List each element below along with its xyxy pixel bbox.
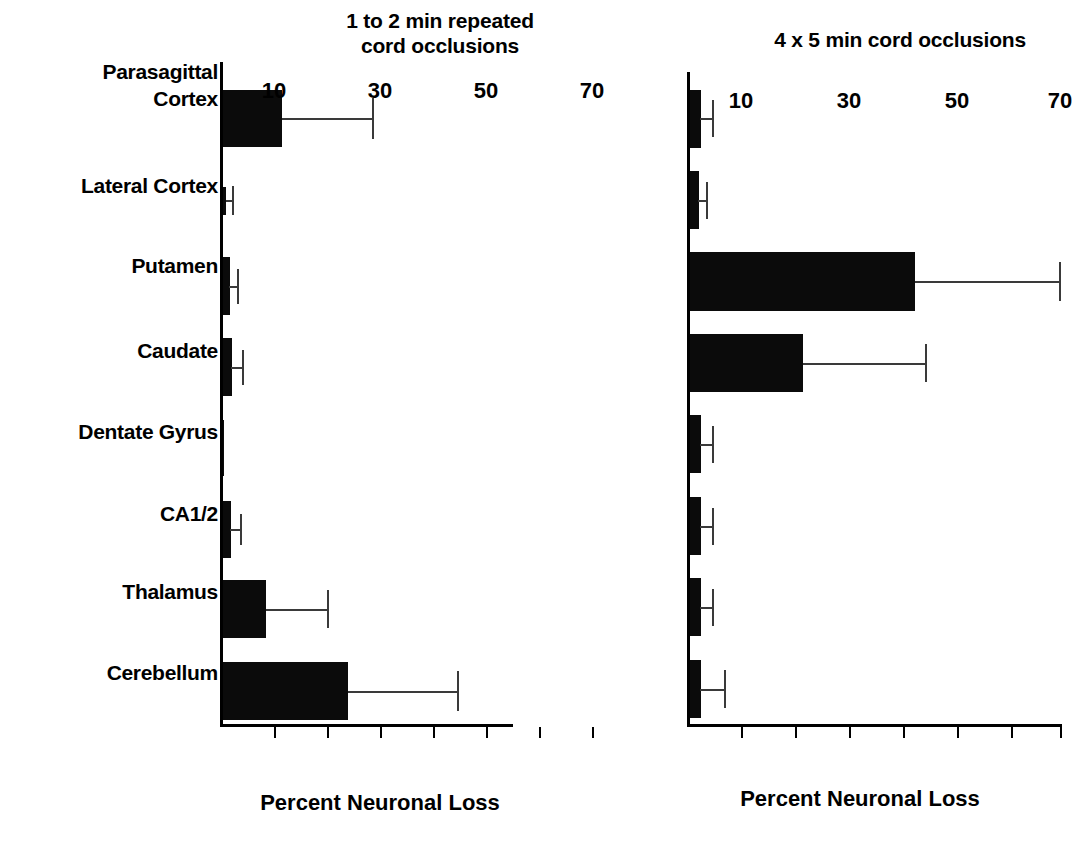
x-ticklabel-50: 50 <box>927 88 987 114</box>
errorbar-line-cerebellum <box>348 691 459 693</box>
category-label-caudate: Caudate <box>10 337 218 364</box>
errorbar-cap-caudate <box>925 344 927 382</box>
errorbar-cap-putamen <box>237 269 239 304</box>
bar-caudate <box>690 334 803 392</box>
x-ticklabel-10: 10 <box>244 78 304 104</box>
panel-title-left: 1 to 2 min repeated cord occlusions <box>290 8 590 58</box>
category-label-ca1-2: CA1/2 <box>10 500 218 527</box>
x-ticklabel-50: 50 <box>456 78 516 104</box>
errorbar-line-parasagittal-cortex <box>282 118 374 120</box>
errorbar-cap-parasagittal-cortex <box>372 98 374 139</box>
x-tick-40 <box>903 727 905 738</box>
errorbar-cap-cerebellum <box>724 670 726 708</box>
x-tick-70 <box>592 727 594 738</box>
x-tick-10 <box>741 727 743 738</box>
errorbar-cap-thalamus <box>712 589 714 626</box>
chart-panel-left: 1 to 2 min repeated cord occlusions Para… <box>0 0 600 849</box>
plot-area-right: 10 30 50 70 <box>687 72 1062 727</box>
errorbar-cap-ca1-2 <box>712 508 714 545</box>
category-label-thalamus: Thalamus <box>10 578 218 605</box>
x-ticklabel-70: 70 <box>1030 88 1090 114</box>
x-ticklabel-30: 30 <box>350 78 410 104</box>
bar-putamen <box>690 252 915 311</box>
x-tick-50 <box>486 727 488 738</box>
x-tick-30 <box>380 727 382 738</box>
x-tick-60 <box>539 727 541 738</box>
category-label-dentate-gyrus: Dentate Gyrus <box>10 418 218 445</box>
x-axis-title-right: Percent Neuronal Loss <box>660 786 1060 812</box>
x-tick-20 <box>327 727 329 738</box>
x-tick-20 <box>795 727 797 738</box>
panel-title-right: 4 x 5 min cord occlusions <box>735 27 1065 52</box>
x-ticklabel-10: 10 <box>711 88 771 114</box>
errorbar-cap-cerebellum <box>457 671 459 711</box>
x-tick-70 <box>1060 727 1062 738</box>
x-tick-10 <box>274 727 276 738</box>
x-axis-title-left: Percent Neuronal Loss <box>200 790 560 816</box>
x-axis-line-right <box>687 724 1062 727</box>
errorbar-cap-caudate <box>242 350 244 385</box>
errorbar-cap-thalamus <box>327 590 329 628</box>
bar-cerebellum <box>223 662 348 720</box>
errorbar-cap-dentate-gyrus <box>712 426 714 463</box>
category-label-cerebellum: Cerebellum <box>10 659 218 686</box>
figure-canvas: 1 to 2 min repeated cord occlusions Para… <box>0 0 1090 849</box>
x-tick-50 <box>957 727 959 738</box>
errorbar-cap-lateral-cortex <box>706 182 708 219</box>
errorbar-cap-ca1-2 <box>240 514 242 545</box>
x-tick-40 <box>433 727 435 738</box>
category-label-putamen: Putamen <box>10 252 218 279</box>
x-ticklabel-30: 30 <box>819 88 879 114</box>
chart-panel-right: 4 x 5 min cord occlusions <box>600 0 1090 849</box>
errorbar-line-cerebellum <box>700 689 726 691</box>
bar-thalamus <box>223 580 266 638</box>
errorbar-cap-putamen <box>1059 262 1061 301</box>
category-label-lateral-cortex: Lateral Cortex <box>10 172 218 199</box>
errorbar-line-putamen <box>915 281 1061 283</box>
x-tick-60 <box>1011 727 1013 738</box>
x-tick-30 <box>849 727 851 738</box>
x-axis-line-left <box>220 724 513 727</box>
plot-area-left: 10 30 50 70 <box>220 62 520 727</box>
errorbar-cap-lateral-cortex <box>232 186 234 215</box>
category-label-parasagittal-cortex: Parasagittal Cortex <box>10 58 218 112</box>
bar-dentate-gyrus <box>223 420 224 476</box>
errorbar-line-thalamus <box>266 609 329 611</box>
errorbar-line-caudate <box>803 363 927 365</box>
